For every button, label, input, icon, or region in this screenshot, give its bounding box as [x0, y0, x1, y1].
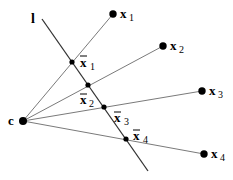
point-xbar3 [101, 104, 106, 109]
point-x2-sub: 2 [179, 44, 184, 55]
point-x1-label: x [120, 6, 127, 21]
xbar4-label: x [133, 128, 140, 143]
point-x2 [159, 42, 166, 49]
point-x3-sub: 3 [218, 89, 223, 100]
center-point-c [19, 117, 27, 125]
point-xbar2 [85, 82, 90, 87]
ray-c-x4 [23, 121, 204, 154]
center-label: c [8, 113, 14, 128]
xbar1-label: x [80, 55, 87, 70]
point-x4-sub: 4 [220, 152, 225, 163]
ray-c-x1 [23, 14, 113, 121]
point-xbar1 [69, 59, 74, 64]
point-x3-label: x [209, 83, 216, 98]
point-x4-label: x [211, 146, 218, 161]
xbar4-sub: 4 [143, 134, 148, 145]
point-x1 [109, 10, 116, 17]
point-xbar4 [123, 136, 128, 141]
point-x3 [198, 87, 205, 94]
ray-c-x3 [23, 91, 202, 121]
xbar2-sub: 2 [89, 98, 94, 109]
point-x2-label: x [170, 38, 177, 53]
line-l [42, 19, 148, 171]
xbar3-sub: 3 [124, 116, 129, 127]
xbar3-label: x [114, 110, 121, 125]
point-x4 [200, 150, 207, 157]
xbar1-sub: 1 [90, 61, 95, 72]
xbar2-label: x [80, 92, 87, 107]
point-x1-sub: 1 [129, 12, 134, 23]
projection-diagram: l c x 1 x 2 x 3 x 4 x 1 x 2 x 3 x 4 [0, 0, 233, 180]
line-l-label: l [31, 11, 35, 26]
